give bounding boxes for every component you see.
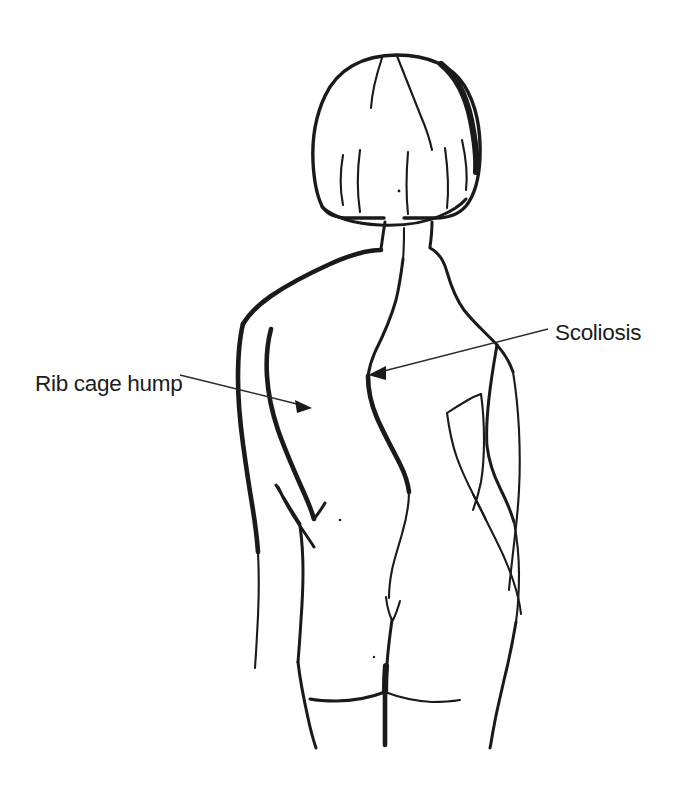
spine-curve-upper (368, 259, 403, 376)
right-arm-inner-upper (473, 394, 484, 510)
shoulders-group (243, 248, 513, 372)
spine-curve-apex (368, 376, 409, 492)
rib-cage-hump-leader-line (180, 375, 305, 406)
buttocks-group (310, 597, 460, 745)
left-forearm-to-hip (298, 526, 303, 662)
sacral-dimple (339, 519, 342, 522)
scoliosis-leader-line (376, 329, 548, 373)
neck-group (381, 222, 432, 259)
spine-curve-lower (389, 492, 409, 598)
left-arm-group (238, 324, 325, 668)
gluteal-cleft-deep (385, 666, 386, 692)
scoliosis-label: Scoliosis (555, 320, 641, 345)
hair-detail-dot (398, 190, 401, 193)
right-armpit-notch (447, 394, 481, 413)
spine-group (368, 259, 409, 598)
torso-group (339, 345, 519, 658)
right-shoulder-contour (430, 248, 513, 372)
left-arm-outer-lower (255, 552, 259, 668)
right-arm-inner (447, 413, 486, 520)
rib-cage-hump-arrowhead (295, 400, 312, 413)
rib-cage-hump-label: Rib cage hump (35, 371, 182, 396)
lower-back-dot (373, 656, 375, 658)
hair-inner-strands (341, 140, 467, 214)
neck-center-spine-start (403, 228, 404, 259)
hair-part-strands (371, 56, 432, 150)
gluteal-cleft-upper-v (386, 597, 400, 620)
neck-right-side (430, 222, 432, 247)
gluteal-fold-right (385, 692, 460, 702)
illustration-canvas: Rib cage hump Scoliosis (0, 0, 676, 788)
scoliosis-illustration: Rib cage hump Scoliosis (0, 0, 676, 788)
left-shoulder-contour (243, 250, 381, 324)
left-arm-inner-ribhump (267, 329, 314, 519)
left-thigh (298, 662, 316, 748)
gluteal-fold-left (310, 692, 385, 701)
right-arm-group (447, 372, 521, 614)
label-scoliosis: Scoliosis (368, 320, 641, 380)
right-thigh (490, 622, 516, 748)
left-arm-outer (238, 324, 258, 552)
thighs-group (298, 622, 516, 748)
right-torso-flank (487, 345, 514, 522)
head-group (313, 55, 480, 225)
